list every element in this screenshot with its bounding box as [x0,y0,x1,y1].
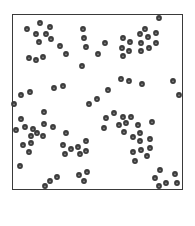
dot-field [0,0,195,226]
dot-icon [76,172,82,178]
dot-icon [153,40,159,46]
dot-icon [174,180,180,186]
dot-icon [120,53,126,59]
dot-icon [94,96,100,102]
dot-icon [111,110,117,116]
dot-icon [48,36,54,42]
dot-icon [75,144,81,150]
dot-icon [142,26,148,32]
dot-icon [157,167,163,173]
dot-icon [60,142,66,148]
dot-icon [81,35,87,41]
dot-icon [130,134,136,140]
dot-icon [152,175,158,181]
dot-icon [27,89,33,95]
dot-icon [147,136,153,142]
dot-icon [144,153,150,159]
dot-icon [139,81,145,87]
dot-icon [83,44,89,50]
dot-icon [41,109,47,115]
dot-icon [86,101,92,107]
dot-icon [77,151,83,157]
dot-icon [128,114,134,120]
dot-icon [138,40,144,46]
dot-icon [81,178,87,184]
dot-icon [20,142,26,148]
dot-icon [101,125,107,131]
dot-icon [18,116,24,122]
dot-icon [17,163,23,169]
dot-icon [62,151,68,157]
dot-icon [172,171,178,177]
dot-icon [138,48,144,54]
dot-icon [126,48,132,54]
dot-icon [33,31,39,37]
dot-icon [153,30,159,36]
dot-icon [47,24,53,30]
dot-icon [126,78,132,84]
dot-icon [127,39,133,45]
dot-icon [54,174,60,180]
dot-icon [26,55,32,61]
dot-icon [63,130,69,136]
dot-icon [34,130,40,136]
dot-icon [137,31,143,37]
dot-icon [121,129,127,135]
dot-icon [18,92,24,98]
dot-icon [51,85,57,91]
dot-icon [50,124,56,130]
dot-icon [80,26,86,32]
dot-icon [156,183,162,189]
dot-icon [103,115,109,121]
dot-icon [68,146,74,152]
dot-icon [26,149,32,155]
dot-icon [119,45,125,51]
dot-icon [105,87,111,93]
dot-icon [130,149,136,155]
dot-icon [163,180,169,186]
dot-icon [40,54,46,60]
dot-icon [13,127,19,133]
dot-icon [149,119,155,125]
dot-icon [63,51,69,57]
dot-icon [147,145,153,151]
dot-icon [41,121,47,127]
dot-icon [22,124,28,130]
dot-icon [137,138,143,144]
dot-icon [84,169,90,175]
dot-icon [116,122,122,128]
dot-icon [146,45,152,51]
dot-icon [83,138,89,144]
dot-icon [135,122,141,128]
dot-icon [170,78,176,84]
dot-icon [123,120,129,126]
dot-icon [102,40,108,46]
dot-icon [47,178,53,184]
dot-icon [40,133,46,139]
dot-icon [138,147,144,153]
dot-icon [145,34,151,40]
dot-icon [42,183,48,189]
dot-icon [137,130,143,136]
dot-icon [95,51,101,57]
dot-icon [83,148,89,154]
dot-icon [43,31,49,37]
dot-icon [176,92,182,98]
dot-icon [36,39,42,45]
dot-icon [11,101,17,107]
dot-icon [120,114,126,120]
dot-icon [60,83,66,89]
dot-icon [37,20,43,26]
dot-icon [33,57,39,63]
dot-icon [28,140,34,146]
dot-icon [57,43,63,49]
dot-icon [120,35,126,41]
dot-icon [156,15,162,21]
dot-icon [79,63,85,69]
dot-icon [118,76,124,82]
dot-icon [28,133,34,139]
dot-icon [132,158,138,164]
dot-icon [24,26,30,32]
